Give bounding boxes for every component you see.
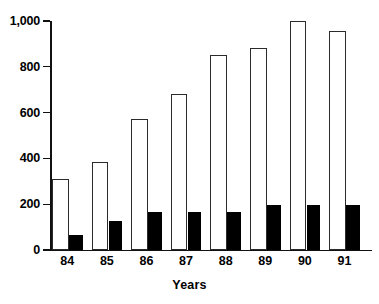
- bar-filled-90: [307, 205, 321, 250]
- y-axis-tick: [43, 204, 50, 205]
- x-axis-title: Years: [0, 278, 379, 292]
- plot-area: 02004006008001,000 8485868788899091 Year…: [0, 0, 379, 304]
- bar-filled-88: [227, 212, 241, 250]
- x-axis-tick-label-84: 84: [47, 255, 87, 268]
- bar-filled-85: [109, 221, 123, 250]
- y-axis-tick-label: 600: [0, 107, 45, 120]
- bar-open-88: [210, 55, 227, 250]
- x-axis-tick-label-85: 85: [87, 255, 127, 268]
- bar-open-91: [329, 31, 346, 250]
- y-axis-tick: [43, 112, 50, 113]
- bar-open-90: [290, 21, 307, 250]
- y-axis-tick-label: 1,000: [0, 15, 45, 28]
- y-axis-tick: [43, 20, 50, 21]
- bar-open-86: [131, 119, 148, 250]
- y-axis-tick: [43, 66, 50, 67]
- bar-open-89: [250, 48, 267, 250]
- y-axis-tick-label: 400: [0, 152, 45, 165]
- bar-open-85: [92, 162, 109, 250]
- bar-filled-89: [267, 205, 281, 250]
- bar-filled-86: [148, 212, 162, 250]
- x-axis-tick-label-89: 89: [245, 255, 285, 268]
- x-axis-tick-label-90: 90: [285, 255, 325, 268]
- bar-filled-84: [69, 235, 83, 250]
- x-axis-tick-label-91: 91: [324, 255, 364, 268]
- bar-open-87: [171, 94, 188, 250]
- x-axis-tick-label-88: 88: [206, 255, 246, 268]
- bar-filled-87: [188, 212, 202, 250]
- bar-chart: 02004006008001,000 8485868788899091 Year…: [0, 0, 379, 304]
- y-axis-tick: [43, 158, 50, 159]
- bar-filled-91: [346, 205, 360, 250]
- x-axis-tick-label-86: 86: [126, 255, 166, 268]
- y-axis-tick-label: 200: [0, 198, 45, 211]
- x-axis-tick-label-87: 87: [166, 255, 206, 268]
- y-axis-tick-label: 800: [0, 61, 45, 74]
- x-axis-tick-labels: 8485868788899091: [0, 255, 379, 275]
- y-axis-tick: [43, 249, 50, 250]
- bar-open-84: [52, 179, 69, 250]
